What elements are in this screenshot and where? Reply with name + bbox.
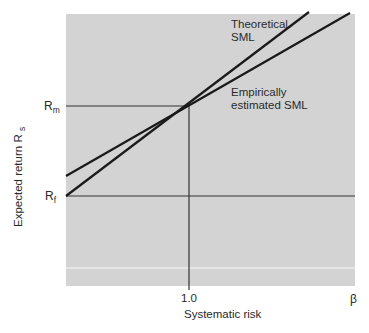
sml-chart: Theoretical SML Empirically estimated SM… — [0, 0, 369, 333]
theoretical-sml-label-1: Theoretical — [231, 18, 288, 30]
x-tick-1-label: 1.0 — [181, 292, 197, 304]
y-axis-title: Expected return R s — [12, 127, 27, 227]
rm-tick-label: Rm — [44, 99, 60, 115]
theoretical-sml-label-2: SML — [231, 31, 255, 43]
beta-axis-label: β — [350, 292, 357, 306]
empirical-sml-label-1: Empirically — [231, 86, 287, 98]
empirical-sml-label-2: estimated SML — [231, 99, 308, 111]
rf-tick-label: Rf — [45, 189, 57, 205]
x-axis-title: Systematic risk — [184, 308, 262, 320]
